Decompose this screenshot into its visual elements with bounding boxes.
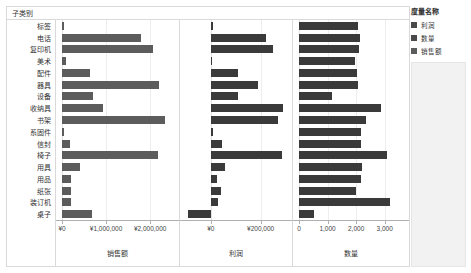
axis-tick (261, 221, 262, 224)
bar[interactable] (299, 151, 387, 159)
bar[interactable] (299, 163, 362, 171)
row-field-header: 子类别 (7, 8, 56, 18)
bar-slot (293, 20, 409, 32)
bar[interactable] (299, 210, 314, 218)
bar[interactable] (299, 57, 355, 65)
bar[interactable] (299, 116, 366, 124)
bar[interactable] (211, 116, 278, 124)
bar[interactable] (299, 104, 381, 112)
category-label: 配件 (7, 67, 55, 79)
bar[interactable] (211, 57, 213, 65)
legend-item[interactable]: 数量 (411, 33, 466, 43)
bar[interactable] (211, 45, 273, 53)
axis-profit: 利润 ¥0¥200,000 (180, 220, 293, 266)
bar[interactable] (211, 81, 258, 89)
legend-item[interactable]: 销售额 (411, 46, 466, 56)
category-label: 设备 (7, 91, 55, 103)
axis-title-profit: 利润 (180, 248, 292, 258)
bar[interactable] (62, 22, 64, 30)
bar[interactable] (62, 69, 90, 77)
bar[interactable] (62, 151, 158, 159)
axis-tick-label: ¥0 (207, 225, 214, 232)
axis-tick-label: ¥200,000 (247, 225, 274, 232)
pane-quantity (293, 20, 409, 220)
bar-slot (56, 196, 179, 208)
bars-profit (180, 20, 292, 220)
bar-slot (180, 79, 292, 91)
bar-slot (56, 67, 179, 79)
category-label: 用品 (7, 173, 55, 185)
bar-slot (293, 149, 409, 161)
axis-tick (211, 221, 212, 224)
bar[interactable] (62, 140, 70, 148)
bar-slot (293, 32, 409, 44)
legend-swatch-icon (411, 48, 417, 54)
legend-area: 度量名称 利润数量销售额 (410, 0, 471, 273)
bar[interactable] (211, 92, 238, 100)
bar[interactable] (299, 45, 359, 53)
bar[interactable] (62, 116, 165, 124)
category-label: 信封 (7, 138, 55, 150)
bar[interactable] (62, 34, 141, 42)
bar[interactable] (62, 92, 93, 100)
bar-slot (180, 32, 292, 44)
bar-slot (293, 79, 409, 91)
bar-slot (180, 173, 292, 185)
bar[interactable] (299, 34, 360, 42)
axis-tick (62, 221, 63, 224)
bar[interactable] (299, 81, 358, 89)
category-label: 标签 (7, 20, 55, 32)
bar[interactable] (62, 57, 66, 65)
chart-area: 子类别 标签电话复印机美术配件器具设备收纳具书架系固件信封椅子用具用品纸张装订机… (0, 0, 410, 273)
legend-item-label: 利润 (421, 20, 435, 30)
bar[interactable] (211, 34, 266, 42)
bar[interactable] (299, 69, 357, 77)
bar[interactable] (211, 198, 218, 206)
bar[interactable] (299, 140, 361, 148)
bar[interactable] (211, 187, 221, 195)
bar[interactable] (62, 187, 71, 195)
bar-slot (293, 208, 409, 220)
bar[interactable] (62, 163, 80, 171)
category-label: 收纳具 (7, 102, 55, 114)
axis-tick-label: ¥1,000,000 (90, 225, 123, 232)
bar[interactable] (188, 210, 210, 218)
bar-slot (180, 114, 292, 126)
axis-quantity: 数量 01,0002,0003,000 (293, 220, 409, 266)
bar-slot (180, 208, 292, 220)
bar[interactable] (299, 198, 390, 206)
bar-slot (56, 173, 179, 185)
bar[interactable] (62, 198, 71, 206)
axis-tick (150, 221, 151, 224)
bar[interactable] (299, 175, 361, 183)
bar[interactable] (62, 104, 103, 112)
bar[interactable] (211, 163, 225, 171)
bar[interactable] (62, 45, 153, 53)
legend-box: 度量名称 利润数量销售额 (411, 6, 466, 56)
bar[interactable] (62, 128, 64, 136)
bar-slot (293, 196, 409, 208)
bar-slot (293, 161, 409, 173)
bar-slot (180, 67, 292, 79)
bar[interactable] (299, 128, 361, 136)
bar[interactable] (211, 128, 213, 136)
bar[interactable] (211, 104, 283, 112)
bar[interactable] (211, 151, 282, 159)
bar[interactable] (299, 92, 332, 100)
bar[interactable] (62, 81, 159, 89)
bar[interactable] (299, 187, 356, 195)
bar-slot (56, 79, 179, 91)
category-label: 椅子 (7, 149, 55, 161)
bar-slot (293, 173, 409, 185)
bar-slot (56, 44, 179, 56)
bar[interactable] (299, 22, 358, 30)
category-label: 美术 (7, 55, 55, 67)
bar[interactable] (62, 175, 71, 183)
bar[interactable] (62, 210, 92, 218)
bar[interactable] (211, 140, 222, 148)
bar[interactable] (211, 69, 238, 77)
bar[interactable] (211, 22, 213, 30)
bar-slot (180, 20, 292, 32)
legend-item[interactable]: 利润 (411, 20, 466, 30)
bar[interactable] (211, 175, 217, 183)
